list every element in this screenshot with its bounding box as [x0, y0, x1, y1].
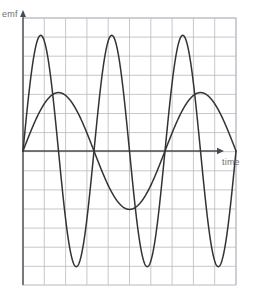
y-axis-arrowhead-icon: [20, 10, 26, 17]
x-axis-arrowhead-icon: [217, 148, 224, 154]
emf-time-graph-figure: emf time: [0, 0, 260, 297]
y-axis-label: emf: [2, 10, 18, 19]
x-axis-label: time: [222, 158, 240, 167]
plot-canvas: [0, 0, 260, 297]
